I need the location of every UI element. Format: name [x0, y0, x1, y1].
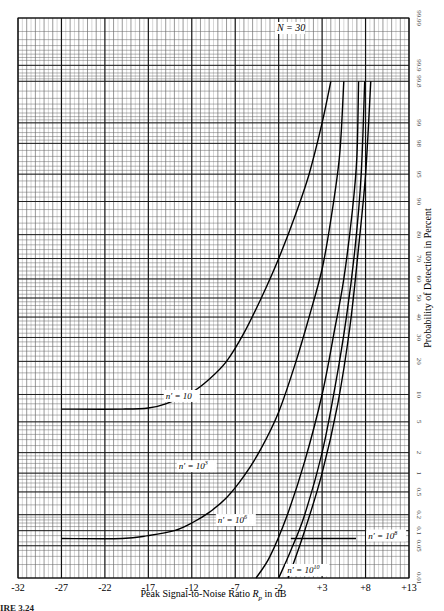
curve-label-4: n′ = 1010: [285, 564, 329, 576]
y-tick-label: 0.5: [415, 488, 423, 497]
figure-caption: IRE 3.24: [0, 603, 34, 611]
y-tick-label: 10: [415, 391, 423, 399]
x-tick-label: -32: [11, 582, 24, 593]
svg-text:n′ = 10: n′ = 10: [166, 391, 193, 401]
svg-text:n′ = 103: n′ = 103: [179, 460, 208, 471]
title-box: N = 30: [275, 22, 305, 34]
y-tick-label: 98: [415, 140, 423, 148]
y-tick-label: 2: [415, 451, 423, 455]
curve-label-1: n′ = 103: [177, 460, 217, 472]
curve-label-2: n′ = 106: [216, 514, 256, 526]
chart-title: N = 30: [276, 22, 305, 33]
x-tick-label: +8: [360, 582, 371, 593]
curve-label-3: n′ = 108: [366, 530, 406, 542]
y-tick-label: 0.1: [415, 526, 423, 535]
detection-curves: [61, 81, 370, 578]
y-tick-label: 0.2: [415, 510, 423, 519]
svg-text:n′ = 108: n′ = 108: [368, 530, 397, 541]
x-tick-label: -22: [98, 582, 111, 593]
y-tick-label: 0.01: [415, 572, 423, 585]
curve-label-0: n′ = 10: [164, 390, 200, 402]
y-tick-label: 99.8: [415, 75, 423, 88]
y-tick-label: 5: [415, 420, 423, 424]
svg-text:n′ = 106: n′ = 106: [218, 514, 247, 525]
curve-series-2: [256, 81, 359, 578]
x-tick-label: +3: [317, 582, 328, 593]
y-tick-label: 90: [415, 198, 423, 206]
x-axis-title: Peak Signal-to-Noise Ratio Rp in dB: [141, 588, 287, 602]
y-tick-label: 1: [415, 471, 423, 475]
y-tick-label: 99.99: [415, 10, 423, 26]
y-tick-label: 95: [415, 171, 423, 179]
x-tick-label: +13: [401, 582, 417, 593]
x-axis-title-unit: in dB: [262, 588, 287, 599]
y-tick-label: 99: [415, 119, 423, 127]
curve-series-4: [288, 81, 371, 578]
y-axis-title: Probability of Detection in Percent: [422, 208, 433, 348]
y-tick-label: 20: [415, 358, 423, 366]
x-axis-title-main: Peak Signal-to-Noise Ratio: [141, 588, 253, 599]
y-tick-label: 99.9: [415, 59, 423, 72]
y-tick-label: 0.05: [415, 540, 423, 553]
x-tick-label: -27: [55, 582, 68, 593]
x-axis-title-variable: R: [251, 588, 258, 599]
probability-of-detection-chart: n′ = 10n′ = 103n′ = 106n′ = 108n′ = 1010…: [0, 0, 444, 611]
